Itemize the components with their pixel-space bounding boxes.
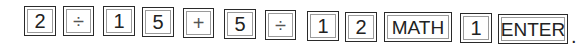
key-divide: ÷ (265, 10, 296, 40)
key-divide: ÷ (63, 6, 94, 36)
key-2: 2 (24, 6, 56, 36)
key-5: 5 (142, 7, 174, 37)
key-5: 5 (224, 9, 256, 39)
key-1: 1 (103, 6, 135, 36)
sequence-terminator: . (571, 25, 577, 48)
key-enter: ENTER (498, 14, 568, 44)
key-1: 1 (307, 11, 339, 41)
key-plus: + (183, 8, 214, 38)
key-math: MATH (384, 12, 452, 42)
key-1: 1 (460, 13, 492, 43)
key-2: 2 (345, 12, 377, 42)
calculator-keystroke-sequence: 2 ÷ 1 5 + 5 ÷ 1 2 MATH 1 ENTER . (0, 0, 588, 49)
